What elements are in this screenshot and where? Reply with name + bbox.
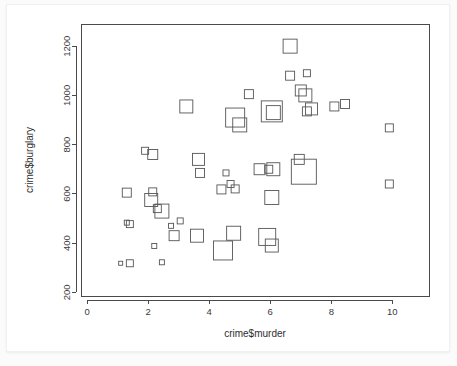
data-points-group xyxy=(119,39,394,267)
data-point xyxy=(152,244,157,249)
data-point xyxy=(231,185,239,193)
data-point xyxy=(159,260,164,265)
data-point xyxy=(217,185,226,194)
data-point xyxy=(119,261,123,265)
data-point xyxy=(259,228,276,245)
data-point xyxy=(265,165,273,173)
data-point xyxy=(213,241,232,260)
data-point xyxy=(196,168,205,177)
data-point xyxy=(295,85,306,96)
data-point xyxy=(244,90,253,99)
scatter-plot: 024681020040060080010001200 crime$murder… xyxy=(7,5,451,353)
data-point xyxy=(254,164,265,175)
data-point xyxy=(122,188,131,197)
data-point xyxy=(180,100,193,113)
data-point xyxy=(227,181,234,188)
x-tick-label: 4 xyxy=(207,306,212,317)
data-point xyxy=(286,71,295,80)
data-point xyxy=(385,180,393,188)
data-point xyxy=(126,221,133,228)
screenshot-root: 024681020040060080010001200 crime$murder… xyxy=(0,0,457,366)
y-tick-label: 1200 xyxy=(62,36,73,57)
y-tick-label: 800 xyxy=(62,137,73,153)
x-tick-label: 0 xyxy=(84,306,89,317)
y-tick-label: 1000 xyxy=(62,85,73,106)
data-point xyxy=(227,226,241,240)
x-axis-title: crime$murder xyxy=(224,328,286,339)
data-point xyxy=(169,231,179,241)
data-point xyxy=(169,223,174,228)
chart-card: 024681020040060080010001200 crime$murder… xyxy=(6,4,450,352)
data-point xyxy=(341,100,350,109)
data-point xyxy=(126,260,133,267)
tick-labels-group: 024681020040060080010001200 xyxy=(62,36,398,317)
plot-frame xyxy=(81,24,429,296)
data-point xyxy=(266,106,280,120)
data-point xyxy=(149,188,157,196)
data-point xyxy=(267,163,280,176)
data-point xyxy=(191,229,204,242)
y-axis-title: crime$burglary xyxy=(24,127,35,193)
data-point xyxy=(303,70,310,77)
x-tick-label: 2 xyxy=(146,306,151,317)
data-point xyxy=(283,39,297,53)
data-point xyxy=(385,124,393,132)
data-point xyxy=(330,102,339,111)
data-point xyxy=(265,191,279,205)
data-point xyxy=(177,218,183,224)
data-point xyxy=(223,170,229,176)
axis-lines-group xyxy=(76,24,429,300)
y-tick-label: 600 xyxy=(62,186,73,202)
data-point xyxy=(261,101,282,122)
x-tick-label: 8 xyxy=(329,306,334,317)
x-tick-label: 6 xyxy=(268,306,273,317)
x-tick-label: 10 xyxy=(387,306,398,317)
data-point xyxy=(299,89,312,102)
data-point xyxy=(193,153,205,165)
data-point xyxy=(148,149,158,159)
y-tick-label: 400 xyxy=(62,235,73,251)
y-tick-label: 200 xyxy=(62,284,73,300)
